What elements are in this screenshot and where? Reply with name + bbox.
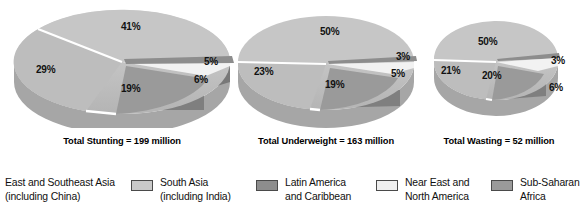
legend-label: East and Southeast Asia (including China… [5,176,115,203]
legend-label-line2: Africa [520,190,580,204]
legend-item-near-east[interactable]: Near East and North America [376,176,469,203]
legend-item-south-asia[interactable]: South Asia (including India) [131,176,231,203]
pie-stunting-label-3: 6% [194,74,208,85]
pie-underweight-label-4: 3% [396,51,410,62]
pie-stunting-label-2: 19% [121,83,140,94]
pie-wasting-label-4: 3% [551,55,565,66]
legend-label-line1: Latin America [285,176,351,190]
legend-label-line1: Near East and [405,176,469,190]
legend-swatch-icon [376,180,398,191]
pie-wasting-caption: Total Wasting = 52 million [424,136,574,146]
pie-underweight-caption: Total Underweight = 163 million [232,136,420,146]
slice-gap [310,109,320,110]
legend-label-line1: East and Southeast Asia [5,176,115,190]
legend-swatch-icon [256,180,278,191]
pie-chart-group: 41% 29% 19% 6% 5% Total Stunting = 199 m… [0,0,579,160]
pie-underweight-graphic [232,0,420,128]
pie-stunting-caption: Total Stunting = 199 million [8,136,236,146]
pie-stunting-label-0: 41% [121,21,140,32]
pie-wasting-svg [430,0,560,128]
pie-wasting-label-0: 50% [478,36,497,47]
pie-stunting-label-4: 5% [204,56,218,67]
pie-underweight-label-1: 23% [254,66,273,77]
legend-label-line2: (including China) [5,190,115,204]
legend-label-line2: and Caribbean [285,190,351,204]
pie-wasting-graphic [430,0,560,128]
slice-gap [486,99,492,100]
pie-underweight-label-3: 5% [391,68,405,79]
pie-underweight-label-0: 50% [320,26,339,37]
legend-swatch-icon [131,180,153,191]
pie-wasting-label-3: 6% [549,82,563,93]
pie-underweight-svg [232,0,420,128]
chart-legend: East and Southeast Asia (including China… [0,176,579,220]
legend-label-line1: Sub-Saharan [520,176,580,190]
legend-item-latin-america[interactable]: Latin America and Caribbean [256,176,351,203]
legend-item-sub-saharan-africa[interactable]: Sub-Saharan Africa [491,176,580,203]
legend-label-line1: South Asia [160,176,231,190]
legend-label: Latin America and Caribbean [285,176,351,203]
pie-underweight-label-2: 19% [325,79,344,90]
legend-label-line2: North America [405,190,469,204]
slice-south-asia [238,16,414,64]
legend-label: South Asia (including India) [160,176,231,203]
pie-wasting-label-2: 20% [482,70,501,81]
legend-label-line2: (including India) [160,190,231,204]
legend-swatch-icon [491,180,513,191]
legend-label: Sub-Saharan Africa [520,176,580,203]
pie-wasting-label-1: 21% [441,65,460,76]
legend-label: Near East and North America [405,176,469,203]
legend-item-east-southeast-asia[interactable]: East and Southeast Asia (including China… [0,176,115,203]
pie-stunting-label-1: 29% [36,64,55,75]
